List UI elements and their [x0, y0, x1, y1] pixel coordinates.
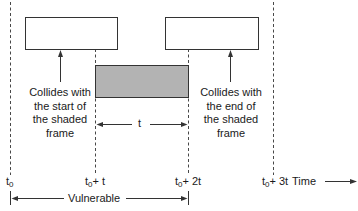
- arrowhead-right-icon: [181, 196, 188, 201]
- arrowhead-up-icon: [58, 50, 63, 57]
- tick-t0-plus-2t: t0+ 2t: [175, 175, 201, 188]
- left-caption: Collides with the start of the shaded fr…: [18, 86, 102, 140]
- tick-t0-plus-t: t0+ t: [85, 175, 105, 188]
- tick-t0: t0: [6, 175, 14, 188]
- arrowhead-right-icon: [181, 122, 188, 127]
- later-frame: [166, 18, 259, 50]
- earlier-frame: [26, 18, 118, 50]
- arrowhead-up-icon: [228, 50, 233, 57]
- right-caption: Collides with the end of the shaded fram…: [189, 86, 273, 140]
- duration-label: t: [138, 117, 141, 130]
- arrowhead-left-icon: [12, 196, 19, 201]
- vulnerable-label: Vulnerable: [68, 192, 120, 205]
- arrowhead-right-icon: [350, 179, 357, 184]
- tick-t0-plus-3t: t0+ 3t: [262, 175, 288, 188]
- shaded-frame: [96, 66, 189, 98]
- time-label: Time: [292, 175, 316, 188]
